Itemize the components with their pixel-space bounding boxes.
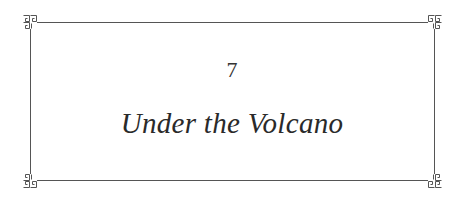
top-left-ornament: [24, 16, 37, 29]
top-right-ornament: [429, 16, 442, 29]
decorative-frame: [0, 0, 464, 197]
chapter-number: 7: [0, 58, 464, 82]
bottom-left-ornament: [24, 175, 37, 188]
bottom-right-ornament: [429, 175, 442, 188]
chapter-title: Under the Volcano: [0, 106, 464, 140]
